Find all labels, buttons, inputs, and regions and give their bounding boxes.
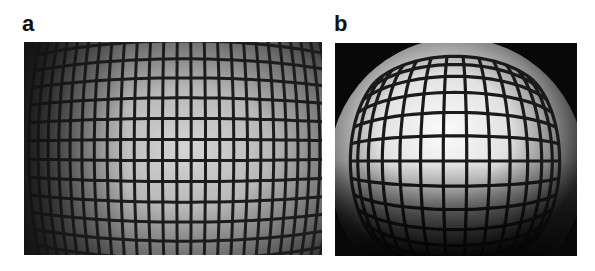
distorted-grid-a bbox=[24, 42, 322, 255]
panel-a-image bbox=[24, 42, 322, 255]
panel-b-image bbox=[335, 43, 577, 256]
panel-a-label: a bbox=[22, 13, 34, 35]
panel-b-label: b bbox=[334, 13, 347, 35]
distorted-grid-b bbox=[335, 43, 577, 256]
